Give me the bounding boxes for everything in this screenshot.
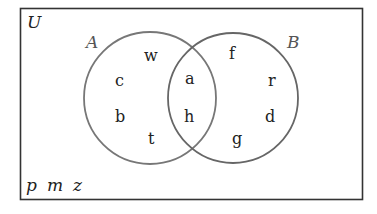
element-h: h <box>184 107 194 126</box>
element-g: g <box>232 129 242 148</box>
universe-label: U <box>27 12 42 32</box>
outside-element-p: p <box>26 175 37 195</box>
universe-frame <box>21 9 363 200</box>
outside-element-m: m <box>47 175 63 195</box>
element-c: c <box>115 71 124 90</box>
element-t: t <box>148 129 155 148</box>
element-r: r <box>268 71 276 90</box>
element-a: a <box>185 69 195 88</box>
venn-diagram: U A B w c b t a h f r d g p m z <box>0 0 377 214</box>
element-d: d <box>265 107 275 126</box>
outside-element-z: z <box>72 175 83 195</box>
element-w: w <box>144 46 158 65</box>
element-f: f <box>229 44 236 63</box>
set-b-label: B <box>286 32 300 52</box>
set-a-label: A <box>84 32 98 52</box>
element-b: b <box>115 107 125 126</box>
